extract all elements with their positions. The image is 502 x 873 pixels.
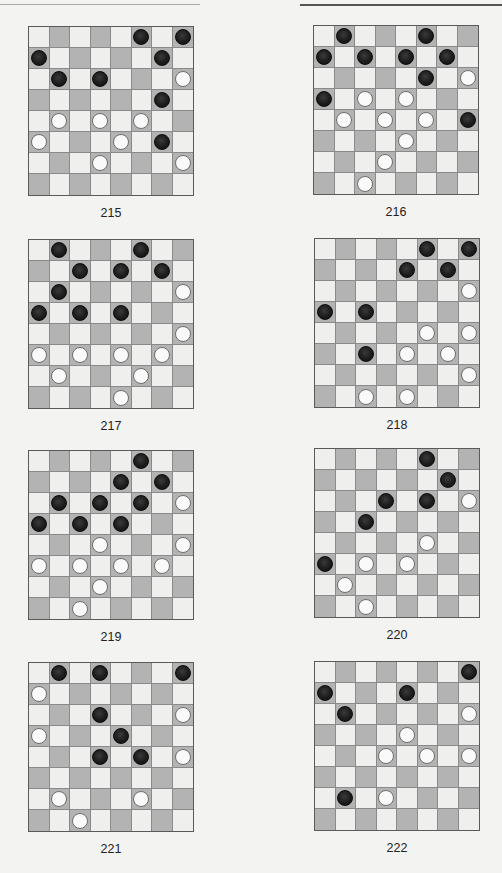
checkerboard (313, 25, 479, 195)
board-square (356, 788, 377, 809)
white-checker-piece-icon (72, 601, 88, 617)
board-square (336, 491, 357, 512)
board-square (91, 345, 112, 366)
white-checker-piece-icon (175, 326, 191, 342)
white-checker-piece-icon (92, 537, 108, 553)
board-square (132, 48, 153, 69)
white-checker-piece-icon (175, 495, 191, 511)
board-square (438, 533, 459, 554)
board-square (314, 152, 335, 173)
board-square (377, 239, 398, 260)
board-square (315, 746, 336, 767)
board-square (29, 282, 50, 303)
board-square (397, 386, 418, 407)
board-square (91, 556, 112, 577)
board-square (132, 69, 153, 90)
board-square (132, 324, 153, 345)
board-square (418, 260, 439, 281)
black-checker-piece-icon (133, 495, 149, 511)
board-square (152, 261, 173, 282)
board-square (355, 47, 376, 68)
black-checker-piece-icon (154, 50, 170, 66)
board-square (50, 768, 71, 789)
board-square (314, 68, 335, 89)
board-square (50, 69, 71, 90)
board-square (315, 449, 336, 470)
board-square (336, 512, 357, 533)
board-square (438, 386, 459, 407)
board-square (29, 240, 50, 261)
white-checker-piece-icon (175, 71, 191, 87)
board-square (29, 153, 50, 174)
board-square (111, 768, 132, 789)
board-square (173, 705, 194, 726)
board-square (29, 514, 50, 535)
white-checker-piece-icon (460, 70, 476, 86)
board-square (418, 491, 439, 512)
board-square (111, 472, 132, 493)
black-checker-piece-icon (336, 28, 352, 44)
board-square (91, 303, 112, 324)
board-square (315, 596, 336, 617)
board-square (396, 68, 417, 89)
board-square (459, 725, 480, 746)
board-square (437, 173, 458, 194)
black-checker-piece-icon (358, 514, 374, 530)
board-square (418, 281, 439, 302)
board-square (173, 261, 194, 282)
board-square (438, 725, 459, 746)
board-square (152, 240, 173, 261)
white-checker-piece-icon (399, 556, 415, 572)
board-square (50, 345, 71, 366)
diagram-221: 221 (28, 662, 194, 856)
white-checker-piece-icon (461, 325, 477, 341)
board-square (438, 470, 459, 491)
white-checker-piece-icon (51, 791, 67, 807)
board-square (29, 387, 50, 408)
board-square (29, 174, 50, 195)
white-checker-piece-icon (31, 558, 47, 574)
board-square (376, 152, 397, 173)
board-square (418, 809, 439, 830)
board-square (356, 239, 377, 260)
board-square (111, 387, 132, 408)
board-square (396, 47, 417, 68)
board-square (356, 662, 377, 683)
board-square (173, 493, 194, 514)
board-square (111, 261, 132, 282)
black-checker-piece-icon (31, 516, 47, 532)
board-square (152, 90, 173, 111)
board-square (70, 577, 91, 598)
board-square (70, 451, 91, 472)
board-square (438, 323, 459, 344)
board-square (132, 577, 153, 598)
board-square (356, 554, 377, 575)
black-checker-piece-icon (398, 49, 414, 65)
board-square (356, 260, 377, 281)
diagram-220: 220 (314, 448, 480, 642)
board-square (152, 387, 173, 408)
board-square (70, 684, 91, 705)
board-square (91, 174, 112, 195)
board-square (111, 282, 132, 303)
board-square (50, 174, 71, 195)
board-square (315, 491, 336, 512)
white-checker-piece-icon (133, 113, 149, 129)
board-square (355, 110, 376, 131)
board-square (50, 387, 71, 408)
board-square (315, 809, 336, 830)
board-square (397, 512, 418, 533)
board-square (356, 491, 377, 512)
board-square (459, 386, 480, 407)
board-square (173, 514, 194, 535)
board-square (152, 705, 173, 726)
black-checker-piece-icon (113, 263, 129, 279)
board-square (458, 89, 479, 110)
board-square (397, 365, 418, 386)
board-square (418, 449, 439, 470)
board-square (336, 725, 357, 746)
white-checker-piece-icon (113, 134, 129, 150)
black-checker-piece-icon (92, 495, 108, 511)
board-square (152, 69, 173, 90)
board-square (132, 726, 153, 747)
